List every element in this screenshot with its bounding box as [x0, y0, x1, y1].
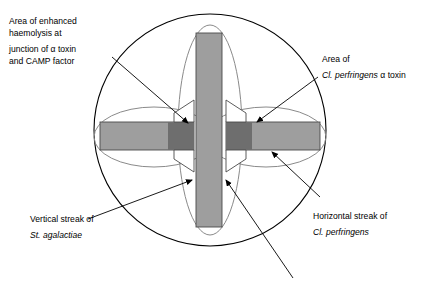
leader-line-vertical-streak [88, 180, 192, 219]
label-enhanced-haemolysis: Area of enhanced haemolysis at junction … [8, 16, 79, 66]
label-vertical-streak: Vertical streak of St. agalactiae [30, 214, 96, 240]
enhanced-line-3: junction of α toxin [8, 44, 76, 54]
vertical-line-1: Vertical streak of [30, 214, 94, 224]
alpha-line-2-tail: α toxin [378, 70, 406, 80]
junction-zone-lower-left [174, 150, 194, 172]
enhanced-line-1: Area of enhanced [9, 16, 77, 26]
junction-zone-lower-right [226, 150, 246, 172]
junction-zone-upper-left [174, 100, 194, 122]
horizontal-line-2-species: Cl. perfringens [313, 227, 370, 237]
vertical-streak [196, 33, 222, 227]
junction-zone-upper-right [226, 100, 246, 122]
horizontal-streak-right-dark-end [226, 122, 252, 150]
leader-line-unlabelled-bottom [226, 180, 293, 278]
enhanced-line-2: haemolysis at [9, 28, 62, 38]
label-alpha-toxin-area: Area of Cl. perfringens α toxin [322, 54, 406, 80]
horizontal-streak-left-dark-end [168, 122, 194, 150]
alpha-line-2-species: Cl. perfringens [322, 70, 379, 80]
label-horizontal-streak: Horizontal streak of Cl. perfringens [313, 211, 389, 237]
leader-line-enhanced-haemolysis [112, 57, 188, 123]
leader-line-horizontal-streak [272, 152, 320, 197]
camp-test-diagram: Area of enhanced haemolysis at junction … [0, 0, 438, 292]
vertical-line-2-species: St. agalactiae [30, 230, 82, 240]
alpha-line-1: Area of [322, 54, 350, 64]
leader-line-alpha-toxin-area [257, 77, 318, 122]
enhanced-line-4: and CAMP factor [9, 56, 74, 66]
horizontal-line-1: Horizontal streak of [313, 211, 388, 221]
